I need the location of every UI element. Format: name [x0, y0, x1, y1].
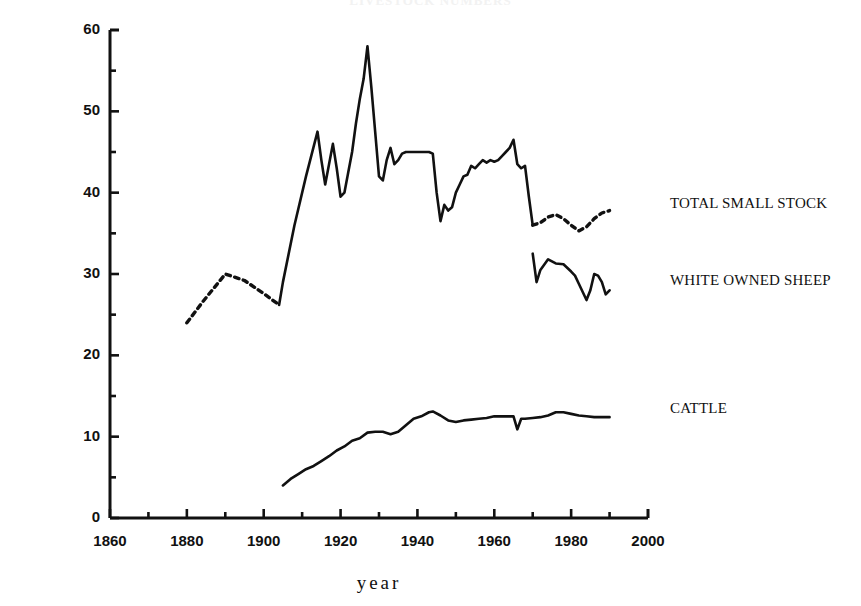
y-tick-label: 20 — [54, 345, 100, 362]
x-tick-label: 2000 — [614, 532, 682, 549]
x-tick-label: 1980 — [537, 532, 605, 549]
series-line-total-small-stock-0 — [187, 274, 279, 323]
series-line-cattle-0 — [283, 411, 610, 485]
chart-figure: LIVESTOCK NUMBERS million head of livest… — [0, 0, 861, 606]
series-label-cattle: CATTLE — [670, 400, 727, 417]
x-tick-label: 1920 — [307, 532, 375, 549]
x-tick-label: 1940 — [383, 532, 451, 549]
series-label-white-owned-sheep: WHITE OWNED SHEEP — [670, 272, 831, 289]
x-tick-label: 1900 — [230, 532, 298, 549]
series-line-white-owned-sheep-0 — [533, 254, 610, 300]
series-line-total-small-stock-2 — [533, 211, 610, 231]
y-tick-label: 40 — [54, 183, 100, 200]
y-tick-label: 10 — [54, 427, 100, 444]
x-tick-label: 1960 — [460, 532, 528, 549]
series-paths — [187, 46, 610, 485]
series-line-total-small-stock-1 — [279, 46, 533, 305]
y-tick-label: 60 — [54, 20, 100, 37]
y-tick-label: 0 — [54, 508, 100, 525]
series-label-total-small-stock: TOTAL SMALL STOCK — [670, 195, 827, 212]
y-tick-label: 50 — [54, 101, 100, 118]
axis-lines — [110, 30, 648, 518]
plot-area — [0, 0, 861, 606]
y-tick-label: 30 — [54, 264, 100, 281]
x-tick-label: 1860 — [76, 532, 144, 549]
x-tick-label: 1880 — [153, 532, 221, 549]
